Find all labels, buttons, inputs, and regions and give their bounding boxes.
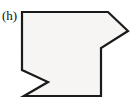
figure-label: (h) — [2, 8, 22, 23]
figure-container: (h) — [0, 0, 131, 106]
